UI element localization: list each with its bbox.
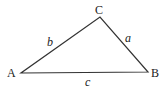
side-label-c: c	[85, 75, 91, 89]
side-label-b: b	[47, 35, 53, 49]
triangle-diagram: A B C a b c	[0, 0, 163, 92]
vertex-label-b: B	[151, 66, 159, 80]
vertex-label-c: C	[95, 3, 103, 17]
vertex-label-a: A	[7, 66, 16, 80]
triangle-shape	[21, 17, 148, 73]
side-label-a: a	[125, 31, 131, 45]
